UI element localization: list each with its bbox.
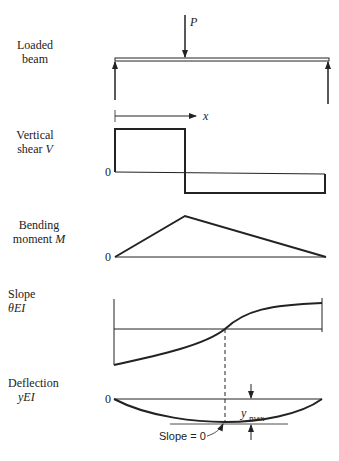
deflection-zero-label: 0 [105, 392, 111, 406]
slope-curve [114, 303, 322, 365]
shear-zero-line [115, 172, 325, 174]
x-axis-label: x [202, 109, 209, 123]
beam-diagram: P x 0 0 0 y max Slope = 0 [0, 0, 339, 461]
deflection-curve [114, 399, 322, 422]
load-label: P [189, 15, 198, 29]
loaded-beam-panel: P x [115, 15, 329, 123]
slope-zero-pointer-icon [207, 424, 223, 436]
shear-panel: 0 [105, 129, 325, 193]
shear-zero-label: 0 [105, 165, 111, 179]
moment-zero-label: 0 [105, 250, 111, 264]
moment-panel: 0 [105, 216, 326, 264]
beam [115, 58, 329, 61]
ymax-label: y [240, 406, 247, 420]
slope-panel [114, 298, 322, 422]
slope-zero-note: Slope = 0 [159, 430, 206, 442]
ymax-subscript: max [249, 413, 265, 423]
shear-curve [115, 129, 325, 193]
deflection-panel: 0 y max Slope = 0 [105, 384, 322, 442]
moment-curve [115, 216, 326, 257]
